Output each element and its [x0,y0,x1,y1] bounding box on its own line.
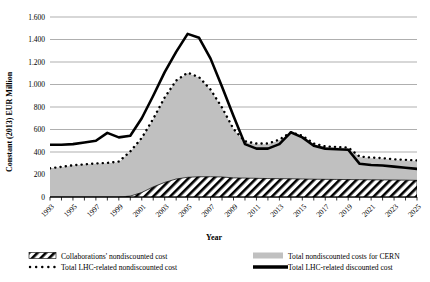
cern-lhc-cost-chart: 02004006008001.0001.2001.4001.600 199319… [0,0,430,282]
legend-swatch-hatch [29,253,56,259]
y-tick-label: 1.400 [28,35,45,44]
legend-label-collaborations: Collaborations' nondiscounted cost [61,252,168,261]
y-tick-label: 1.000 [28,80,45,89]
legend-label-lhc-nondiscounted: Total LHC-related nondiscounted cost [61,263,178,272]
y-tick-label: 200 [34,170,46,179]
chart-figure: 02004006008001.0001.2001.4001.600 199319… [0,0,430,282]
y-tick-label: 600 [34,125,46,134]
y-axis-title: Constant (2013) EUR Million [5,71,14,172]
y-tick-label: 1.600 [28,13,45,22]
x-axis-title: Year [206,233,222,242]
y-tick-label: 400 [34,148,46,157]
y-tick-label: 0 [41,193,45,202]
y-tick-label: 800 [34,103,46,112]
legend-label-lhc-discounted: Total LHC-related discounted cost [288,263,394,272]
legend-label-cern-nondiscounted: Total nondiscounted costs for CERN [288,252,400,261]
legend-swatch-gray [253,253,283,259]
y-tick-label: 1.200 [28,58,45,67]
